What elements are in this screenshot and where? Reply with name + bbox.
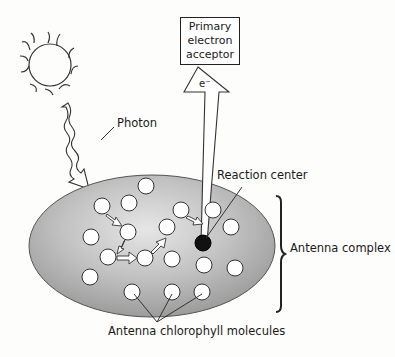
primary-electron-acceptor-box: Primary electron acceptor [180, 17, 240, 65]
brace-icon [276, 196, 285, 312]
reaction-center-dot [195, 235, 211, 251]
acceptor-label-line3: acceptor [181, 48, 239, 62]
acceptor-label-line2: electron [181, 34, 239, 48]
photon-leader-line [101, 127, 114, 140]
photon-wave-arrow-icon [62, 103, 89, 189]
antenna-complex-label: Antenna complex [290, 241, 391, 255]
antenna-complex-ellipse [29, 175, 275, 317]
antenna-molecules-label: Antenna chlorophyll molecules [108, 324, 285, 338]
sun-icon [20, 32, 78, 95]
reaction-center-label: Reaction center [217, 168, 308, 182]
electron-label: e⁻ [199, 78, 210, 89]
photon-label: Photon [117, 116, 157, 130]
acceptor-label-line1: Primary [181, 20, 239, 34]
